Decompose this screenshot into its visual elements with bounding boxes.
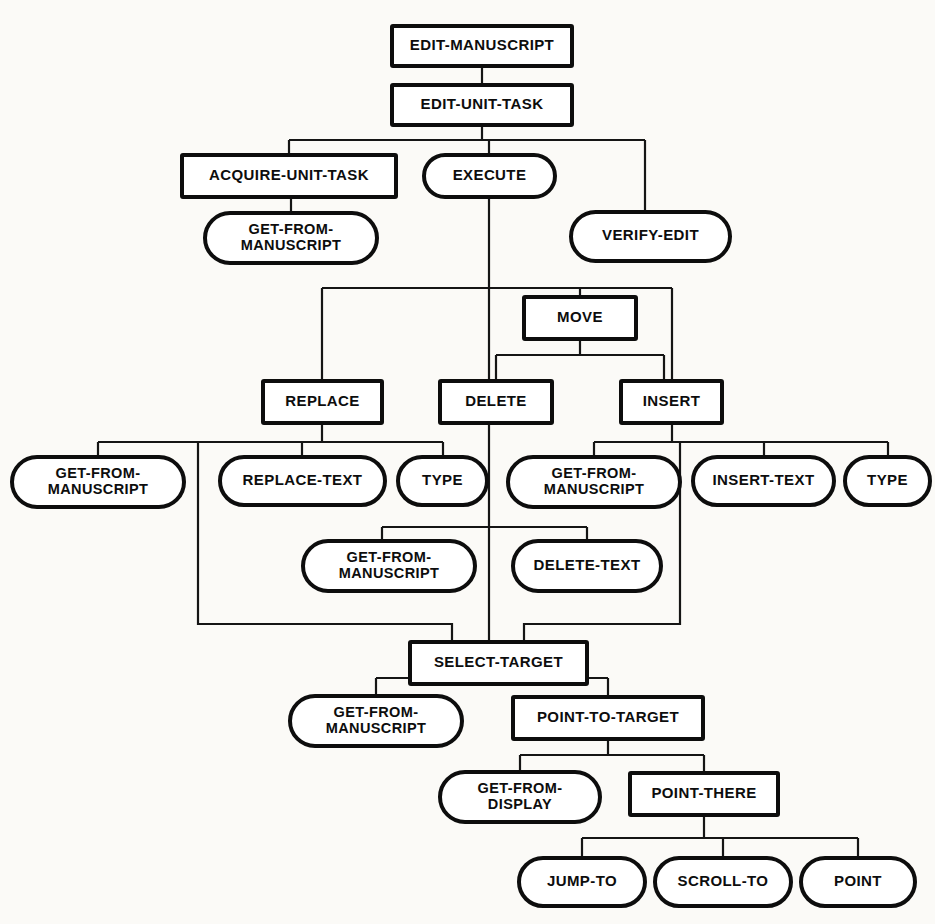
node-edit-manuscript[interactable]: EDIT-MANUSCRIPT [392,26,572,66]
node-verify-edit[interactable]: VERIFY-EDIT [571,212,730,261]
node-shape-stadium [398,457,487,505]
node-shape-stadium [424,155,555,197]
node-delete-text[interactable]: DELETE-TEXT [513,541,661,591]
node-replace[interactable]: REPLACE [263,381,382,423]
node-shape-stadium [303,541,475,591]
node-get-from-manuscript-2[interactable]: GET-FROM-MANUSCRIPT [12,457,184,507]
node-shape-stadium [290,696,462,746]
node-get-from-manuscript-5[interactable]: GET-FROM-MANUSCRIPT [290,696,462,746]
node-shape-stadium [220,457,385,505]
diagram-canvas: EDIT-MANUSCRIPTEDIT-UNIT-TASKACQUIRE-UNI… [0,0,935,924]
node-select-target[interactable]: SELECT-TARGET [410,642,587,684]
node-scroll-to[interactable]: SCROLL-TO [655,858,791,906]
node-insert-text[interactable]: INSERT-TEXT [693,457,834,505]
node-get-from-display[interactable]: GET-FROM-DISPLAY [440,772,600,822]
node-delete[interactable]: DELETE [440,381,552,423]
node-shape-stadium [440,772,600,822]
node-shape-rect [182,155,396,197]
node-shape-rect [440,381,552,423]
node-shape-stadium [693,457,834,505]
node-shape-stadium [845,457,930,505]
edge-point-there-to-point-there-children [582,815,858,858]
node-type-1[interactable]: TYPE [398,457,487,505]
node-replace-text[interactable]: REPLACE-TEXT [220,457,385,505]
node-shape-rect [263,381,382,423]
node-point[interactable]: POINT [801,858,915,906]
node-acquire-unit-task[interactable]: ACQUIRE-UNIT-TASK [182,155,396,197]
edge-insert-to-insert-children [594,423,888,457]
node-jump-to[interactable]: JUMP-TO [519,858,645,906]
node-layer: EDIT-MANUSCRIPTEDIT-UNIT-TASKACQUIRE-UNI… [12,26,930,906]
node-shape-stadium [12,457,184,507]
node-shape-stadium [205,213,377,263]
node-point-there[interactable]: POINT-THERE [630,773,778,815]
node-execute[interactable]: EXECUTE [424,155,555,197]
edge-point-to-target-to-point-to-target-kids [520,739,704,773]
node-get-from-manuscript-3[interactable]: GET-FROM-MANUSCRIPT [508,457,680,507]
goms-task-diagram: EDIT-MANUSCRIPTEDIT-UNIT-TASKACQUIRE-UNI… [0,0,935,924]
node-shape-rect [524,297,636,339]
node-shape-rect [392,85,572,125]
edge-replace-to-replace-children [98,423,443,457]
node-shape-rect [513,697,703,739]
node-get-from-manuscript-1[interactable]: GET-FROM-MANUSCRIPT [205,213,377,263]
node-shape-stadium [655,858,791,906]
node-shape-stadium [519,858,645,906]
node-shape-rect [392,26,572,66]
node-edit-unit-task[interactable]: EDIT-UNIT-TASK [392,85,572,125]
node-type-2[interactable]: TYPE [845,457,930,505]
node-insert[interactable]: INSERT [621,381,722,423]
node-shape-rect [410,642,587,684]
node-shape-stadium [571,212,730,261]
node-shape-stadium [513,541,661,591]
node-shape-rect [621,381,722,423]
node-move[interactable]: MOVE [524,297,636,339]
node-shape-stadium [508,457,680,507]
node-shape-rect [630,773,778,815]
node-shape-stadium [801,858,915,906]
node-point-to-target[interactable]: POINT-TO-TARGET [513,697,703,739]
edge-move-to-delete-insert [496,339,664,381]
node-get-from-manuscript-4[interactable]: GET-FROM-MANUSCRIPT [303,541,475,591]
